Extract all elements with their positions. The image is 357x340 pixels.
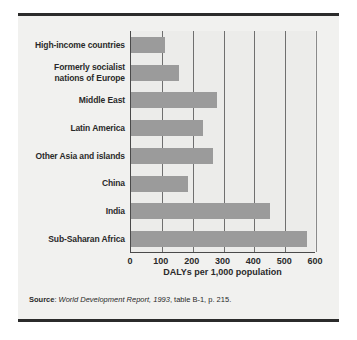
category-label-line: Other Asia and islands bbox=[12, 151, 125, 162]
bar-row bbox=[131, 37, 316, 53]
category-label-line: Latin America bbox=[12, 123, 125, 134]
x-tick-label: 0 bbox=[127, 256, 132, 266]
bar-row bbox=[131, 231, 316, 247]
bar bbox=[131, 92, 217, 108]
category-label: Latin America bbox=[12, 123, 125, 134]
top-rule-divider bbox=[18, 13, 339, 16]
category-label: Other Asia and islands bbox=[12, 151, 125, 162]
category-label-line: China bbox=[12, 178, 125, 189]
category-label-line: Middle East bbox=[12, 95, 125, 106]
bar bbox=[131, 176, 188, 192]
category-label-line: High-income countries bbox=[12, 40, 125, 51]
source-label: Source bbox=[29, 295, 54, 304]
category-axis-labels: High-income countriesFormerly socialistn… bbox=[12, 31, 125, 253]
x-tick-label: 500 bbox=[277, 256, 292, 266]
bar bbox=[131, 203, 270, 219]
category-label: High-income countries bbox=[12, 40, 125, 51]
x-tick-label: 300 bbox=[215, 256, 230, 266]
x-tick-label: 100 bbox=[153, 256, 168, 266]
category-label: Middle East bbox=[12, 95, 125, 106]
bar-row bbox=[131, 176, 316, 192]
bar-row bbox=[131, 148, 316, 164]
category-label-line: nations of Europe bbox=[12, 73, 125, 84]
x-axis-title: DALYs per 1,000 population bbox=[130, 267, 315, 277]
bar bbox=[131, 231, 307, 247]
bar bbox=[131, 65, 179, 81]
bars-group bbox=[131, 31, 315, 252]
bar bbox=[131, 37, 165, 53]
category-label-line: Sub-Saharan Africa bbox=[12, 234, 125, 245]
category-label: Formerly socialistnations of Europe bbox=[12, 62, 125, 83]
bar-row bbox=[131, 120, 316, 136]
category-label: Sub-Saharan Africa bbox=[12, 234, 125, 245]
gridline bbox=[316, 31, 317, 252]
figure-container: High-income countriesFormerly socialistn… bbox=[0, 0, 357, 340]
source-rest: , table B-1, p. 215. bbox=[170, 295, 231, 304]
category-label: China bbox=[12, 178, 125, 189]
bar bbox=[131, 148, 213, 164]
bar-row bbox=[131, 92, 316, 108]
category-label: India bbox=[12, 206, 125, 217]
bottom-rule-divider bbox=[18, 319, 339, 322]
source-note: Source: World Development Report, 1993, … bbox=[29, 295, 329, 304]
category-label-line: Formerly socialist bbox=[12, 62, 125, 73]
bar-row bbox=[131, 65, 316, 81]
plot-area bbox=[130, 31, 315, 253]
category-label-line: India bbox=[12, 206, 125, 217]
bar-row bbox=[131, 203, 316, 219]
x-tick-label: 600 bbox=[307, 256, 322, 266]
x-tick-label: 200 bbox=[184, 256, 199, 266]
x-tick-label: 400 bbox=[246, 256, 261, 266]
bar bbox=[131, 120, 203, 136]
source-title: World Development Report, 1993 bbox=[59, 295, 170, 304]
